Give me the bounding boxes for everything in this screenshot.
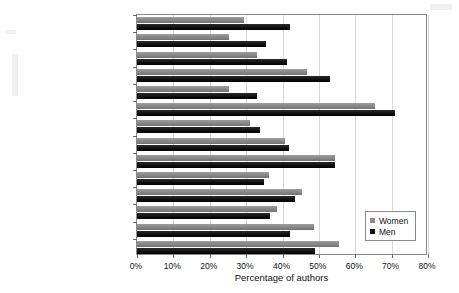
legend-swatch-women <box>370 218 375 223</box>
x-tick-label: 50% <box>309 261 326 271</box>
x-tick-mark <box>392 254 393 258</box>
x-tick-mark <box>355 254 356 258</box>
scan-artifact <box>6 30 16 34</box>
x-tick-mark <box>283 254 284 258</box>
bar-women[interactable] <box>137 103 375 109</box>
bar-men[interactable] <box>137 179 264 185</box>
y-tick-mark <box>133 204 137 205</box>
scan-artifact <box>12 54 18 96</box>
x-tick-mark <box>173 254 174 258</box>
bar-men[interactable] <box>137 162 335 168</box>
y-tick-mark <box>133 239 137 240</box>
x-tick-mark <box>137 254 138 258</box>
y-tick-mark <box>133 222 137 223</box>
bar-women[interactable] <box>137 69 307 75</box>
bar-group <box>137 187 426 204</box>
y-tick-mark <box>133 118 137 119</box>
y-tick-mark <box>133 84 137 85</box>
legend-item-women[interactable]: Women <box>370 215 408 226</box>
bar-men[interactable] <box>137 213 270 219</box>
x-tick-label: 30% <box>237 261 254 271</box>
bar-women[interactable] <box>137 52 257 58</box>
y-tick-mark <box>133 170 137 171</box>
bar-men[interactable] <box>137 110 395 116</box>
x-tick-mark <box>428 254 429 258</box>
bar-group <box>137 49 426 66</box>
x-axis-title: Percentage of authors <box>136 272 427 283</box>
bar-men[interactable] <box>137 41 266 47</box>
x-tick-label: 0% <box>130 261 142 271</box>
y-tick-mark <box>133 49 137 50</box>
bar-women[interactable] <box>137 86 229 92</box>
x-tick-label: 60% <box>346 261 363 271</box>
bar-group <box>137 153 426 170</box>
bar-men[interactable] <box>137 231 290 237</box>
gridline <box>428 15 429 254</box>
bar-women[interactable] <box>137 172 269 178</box>
y-tick-mark <box>133 153 137 154</box>
bar-men[interactable] <box>137 76 330 82</box>
y-tick-mark <box>133 32 137 33</box>
bar-group <box>137 84 426 101</box>
bar-women[interactable] <box>137 17 244 23</box>
x-tick-mark <box>246 254 247 258</box>
bar-women[interactable] <box>137 241 339 247</box>
x-tick-label: 70% <box>382 261 399 271</box>
bar-men[interactable] <box>137 127 260 133</box>
y-tick-mark <box>133 67 137 68</box>
y-tick-mark <box>133 101 137 102</box>
bar-chart-figure: SupervisionFunding acquisitionResourcesC… <box>0 0 459 293</box>
bar-group <box>137 32 426 49</box>
chart-legend: Women Men <box>365 211 416 241</box>
bar-group <box>137 15 426 32</box>
x-tick-mark <box>319 254 320 258</box>
bar-group <box>137 170 426 187</box>
bar-men[interactable] <box>137 196 295 202</box>
bar-group <box>137 67 426 84</box>
bar-women[interactable] <box>137 120 250 126</box>
bar-women[interactable] <box>137 155 335 161</box>
bar-men[interactable] <box>137 24 290 30</box>
bar-women[interactable] <box>137 224 314 230</box>
legend-item-men[interactable]: Men <box>370 226 408 237</box>
bar-men[interactable] <box>137 248 315 254</box>
bar-women[interactable] <box>137 34 229 40</box>
x-tick-label: 80% <box>418 261 435 271</box>
legend-swatch-men <box>370 229 375 234</box>
bar-group <box>137 239 426 256</box>
legend-label-women: Women <box>379 216 408 226</box>
bar-women[interactable] <box>137 206 277 212</box>
bar-men[interactable] <box>137 59 287 65</box>
x-tick-label: 10% <box>164 261 181 271</box>
y-tick-mark <box>133 15 137 16</box>
bar-men[interactable] <box>137 145 289 151</box>
x-tick-label: 40% <box>273 261 290 271</box>
bar-group <box>137 118 426 135</box>
y-tick-mark <box>133 136 137 137</box>
bar-men[interactable] <box>137 93 257 99</box>
x-tick-mark <box>210 254 211 258</box>
scan-artifact <box>430 4 452 10</box>
y-tick-mark <box>133 187 137 188</box>
bar-women[interactable] <box>137 189 302 195</box>
bar-group <box>137 101 426 118</box>
x-tick-label: 20% <box>200 261 217 271</box>
legend-label-men: Men <box>379 227 396 237</box>
bar-women[interactable] <box>137 138 285 144</box>
bar-group <box>137 136 426 153</box>
